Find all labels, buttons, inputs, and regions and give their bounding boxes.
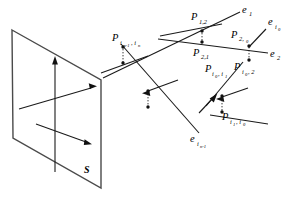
svg-text:1,2: 1,2 [199, 18, 208, 25]
svg-text:P: P [190, 11, 198, 22]
svg-text:n-1: n-1 [200, 144, 206, 149]
svg-text:1: 1 [249, 10, 252, 17]
svg-text:i: i [242, 68, 244, 75]
ray-e2-line [158, 39, 268, 53]
svg-text:0: 0 [243, 122, 246, 127]
svg-text:, i: , i [131, 39, 136, 46]
cross-segment-left [101, 56, 148, 73]
label-p-2-1: P 2,1 [192, 47, 209, 60]
svg-text:n: n [138, 43, 141, 48]
plane-horizontal-axis [19, 83, 97, 109]
svg-text:2,: 2, [239, 35, 244, 42]
label-e1: e 1 [242, 4, 252, 17]
point-dot-p-2-1 [200, 40, 203, 43]
ray-ei0-line [249, 29, 266, 47]
label-p-i0-2: P i 0 , 2 [233, 61, 255, 77]
svg-text:P: P [233, 61, 241, 72]
svg-text:2,1: 2,1 [201, 53, 209, 60]
point-dot-p-1-2 [200, 29, 203, 32]
point-dot-mid-foot [146, 105, 149, 108]
plane-s-label: S [84, 164, 90, 175]
label-p-in1-in: P i n-1 , i n [111, 32, 141, 48]
point-dot-mid [146, 89, 149, 92]
svg-text:P: P [230, 29, 238, 40]
plane-vertical-axis [52, 56, 58, 172]
label-p-2-i0: P 2, 0 [230, 29, 249, 44]
svg-text:, i: , i [218, 70, 223, 77]
label-ei0: e i 0 [268, 16, 281, 32]
point-dot-p-i0-2 [247, 58, 250, 61]
svg-text:1: 1 [233, 122, 235, 127]
svg-text:i: i [120, 39, 122, 46]
point-dot-foot-1 [121, 61, 124, 64]
label-p-1-2: P 1,2 [190, 11, 208, 25]
svg-text:0: 0 [278, 27, 281, 32]
svg-text:e: e [242, 4, 247, 15]
label-p-i0-i1: P i 0 , i 1 [204, 63, 227, 79]
svg-text:i: i [275, 23, 277, 30]
label-e2: e 2 [270, 48, 281, 61]
svg-text:P: P [221, 111, 229, 122]
plane-depth-axis [36, 124, 92, 145]
label-ein1: e i n-1 [190, 133, 206, 149]
svg-text:0: 0 [246, 39, 249, 44]
svg-text:, 2: , 2 [248, 68, 255, 75]
svg-text:i: i [230, 118, 232, 125]
svg-text:P: P [111, 32, 119, 43]
svg-text:e: e [268, 16, 273, 27]
ray-ein1-line [121, 44, 199, 133]
svg-text:P: P [204, 63, 212, 74]
projection-diagram: S [0, 0, 289, 199]
point-dot-p-2-i0 [247, 44, 250, 47]
arrow-segment-up [199, 94, 217, 114]
svg-text:i: i [197, 140, 199, 147]
svg-text:2: 2 [277, 54, 281, 61]
svg-text:, i: , i [236, 118, 241, 125]
plane-s: S [12, 30, 101, 188]
svg-text:e: e [270, 48, 275, 59]
svg-text:i: i [212, 70, 214, 77]
svg-text:P: P [192, 47, 200, 58]
svg-text:1: 1 [225, 74, 227, 79]
svg-text:n-1: n-1 [124, 43, 130, 48]
svg-text:e: e [190, 133, 195, 144]
point-dot-p-i0-i1 [220, 94, 223, 97]
cross-segment-upper [160, 24, 222, 36]
